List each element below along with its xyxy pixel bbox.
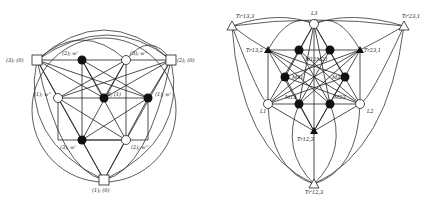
graph-node-e [54,94,63,103]
graph-node-m2 [326,46,335,55]
node-label: (2); w'' [131,144,148,150]
node-label: Tr12,3 [297,136,314,142]
node-label: M13 [284,94,296,100]
node-label: (2); (0) [177,57,194,63]
graph-node-m13 [295,100,304,109]
graph-node-g [144,94,153,103]
node-label: M32 [331,74,343,80]
right-graph [232,17,404,184]
left-graph [32,30,176,182]
graph-node-b [78,56,87,65]
graph-node-m31 [281,73,290,82]
node-label: M12M21 [304,56,328,62]
node-label: Tr'13,3 [236,13,254,19]
node-label: Tr'12,3 [305,189,323,195]
node-label: Tr'23,1 [402,13,420,19]
node-label: L2 [366,108,374,114]
graph-node-L2 [356,100,365,109]
node-label: (1); (0) [92,187,109,193]
graph-node-h [78,136,87,145]
node-label: (3); w'' [130,50,147,56]
node-label: (1); w' [155,91,171,97]
graph-node-d [166,55,176,65]
node-label: B; (1) [106,91,121,97]
node-label: Tr23,1 [364,47,381,53]
graph-node-j [99,175,109,185]
graph-diagrams: (3); (0)(2); w'(3); w''(2); (0)(1); w''B… [0,0,438,203]
node-label: (3); w' [60,144,76,150]
graph-node-c [122,56,131,65]
graph-node-L3 [310,20,319,29]
node-label: (1); w'' [34,91,51,97]
node-label: (2); w' [62,50,78,56]
node-label: Tr13,2 [246,47,263,53]
graph-node-m1 [295,46,304,55]
node-label: L1 [259,108,267,114]
graph-node-a [32,55,42,65]
node-label: M31 [291,74,303,80]
graph-node-tr231 [356,46,364,53]
node-label: M23 [333,94,345,100]
graph-node-i [122,136,131,145]
graph-node-m23 [326,100,335,109]
graph-node-tr123 [310,127,318,134]
graph-node-tr132 [264,46,272,53]
node-label: (3); (0) [6,57,23,63]
node-label: L3 [310,10,318,16]
